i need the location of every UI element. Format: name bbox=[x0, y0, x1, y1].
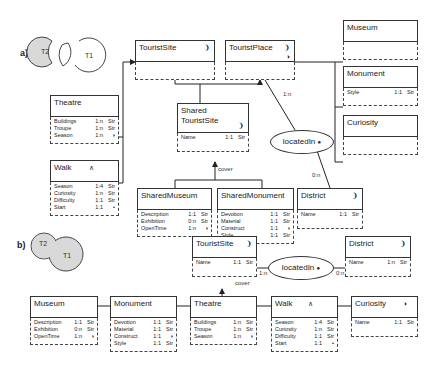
cardinality-label: 1:n bbox=[259, 270, 267, 276]
entity-curiosity-b[interactable]: Curiosity ◑ Name1:1Str bbox=[351, 296, 418, 337]
entity-name: Museum bbox=[34, 299, 65, 308]
entity-district-b[interactable]: District ❩ Name1:nStr bbox=[345, 236, 411, 277]
spatial-icon: ● bbox=[317, 265, 321, 271]
cover-label-b: cover bbox=[235, 280, 250, 286]
entity-name: Theatre bbox=[194, 299, 222, 308]
attribute-row: Season1:n◑ bbox=[194, 333, 253, 340]
temporal-icon: ◑ bbox=[403, 299, 407, 309]
attribute-row: Curiosity1:nStr bbox=[275, 326, 334, 333]
entity-name: District bbox=[349, 239, 373, 248]
venn-b-t1-label: T1 bbox=[63, 252, 71, 259]
entity-monument-b[interactable]: Monument Devotion1:1Str Material1:1Str C… bbox=[110, 296, 177, 352]
attribute-row: Construct1:1◑ bbox=[114, 333, 173, 340]
entity-name: Monument bbox=[114, 299, 152, 308]
cardinality-label: 0:n bbox=[336, 270, 344, 276]
entity-museum-b[interactable]: Museum Description1:1Str Exhibition0:nSt… bbox=[30, 296, 98, 345]
attribute-row: Material1:1Str bbox=[114, 326, 173, 333]
entity-name: Curiosity bbox=[355, 299, 386, 308]
attribute-row: Season1:4Str bbox=[275, 319, 334, 326]
attribute-row: Description1:1Str bbox=[34, 319, 94, 326]
attribute-row: Troupe1:nStr bbox=[194, 326, 253, 333]
relationship-located-in-b[interactable]: locatedIn ● bbox=[268, 256, 334, 280]
entity-theatre-b[interactable]: Theatre Buildings1:nStr Troupe1:nStr Sea… bbox=[190, 296, 257, 345]
attribute-section: Name1:1Str bbox=[351, 318, 418, 337]
attribute-row: Name1:nStr bbox=[349, 259, 407, 266]
attribute-row: OpenTime1:n◑ bbox=[34, 333, 94, 340]
attribute-section: Name1:nStr bbox=[345, 258, 411, 277]
entity-walk-b[interactable]: Walk ∧ Season1:4Str Curiosity1:nStr Diff… bbox=[271, 296, 338, 352]
attribute-section: Buildings1:nStr Troupe1:nStr Season1:n◑ bbox=[190, 318, 257, 345]
entity-name: TouristSite bbox=[196, 239, 233, 248]
spatial-line-icon: ∧ bbox=[308, 299, 313, 309]
attribute-section: Description1:1Str Exhibition0:nStr OpenT… bbox=[30, 318, 98, 345]
attribute-row: Buildings1:nStr bbox=[194, 319, 253, 326]
relationship-name: locatedIn bbox=[282, 263, 314, 272]
attribute-section: Name1:1Str bbox=[192, 258, 257, 277]
attribute-row: Name1:1Str bbox=[196, 259, 253, 266]
attribute-section: Season1:4Str Curiosity1:nStr Difficulty1… bbox=[271, 318, 338, 352]
venn-b-t2-label: T2 bbox=[39, 240, 47, 247]
attribute-row: Exhibition0:nStr bbox=[34, 326, 94, 333]
attribute-section: Devotion1:1Str Material1:1Str Construct1… bbox=[110, 318, 177, 352]
entity-tourist-site-b[interactable]: TouristSite ❩ Name1:1Str bbox=[192, 236, 257, 277]
key-icon: ❩ bbox=[246, 239, 252, 249]
attribute-row: Style1:1Str bbox=[114, 340, 173, 347]
attribute-row: Devotion1:1Str bbox=[114, 319, 173, 326]
attribute-row: Name1:1Str bbox=[355, 319, 414, 326]
key-icon: ❩ bbox=[400, 239, 406, 249]
entity-name: Walk bbox=[275, 299, 292, 308]
attribute-row: Difficulty1:1Str bbox=[275, 333, 334, 340]
attribute-row: Start1:1• bbox=[275, 340, 334, 347]
